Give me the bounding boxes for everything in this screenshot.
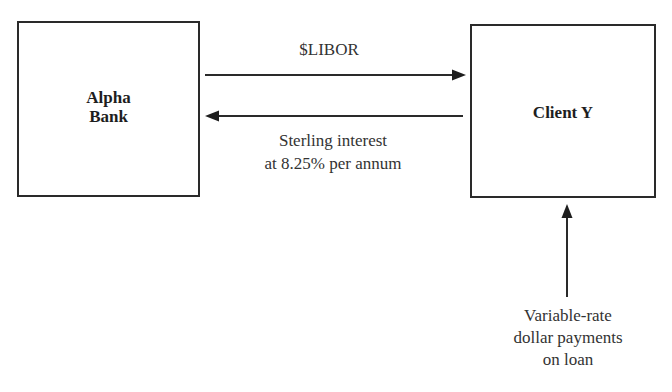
- dollar-payments-label-line-1: Variable-rate: [488, 305, 648, 327]
- arrow-dollar-payments: [562, 204, 573, 297]
- arrow-libor: [205, 70, 466, 81]
- dollar-payments-label-line-2: dollar payments: [488, 327, 648, 349]
- dollar-payments-label-line-3: on loan: [488, 349, 648, 371]
- dollar-payments-label: Variable-rate dollar payments on loan: [488, 305, 648, 371]
- libor-label: $LIBOR: [229, 38, 429, 61]
- sterling-interest-label-line-1: Sterling interest: [233, 129, 433, 152]
- arrow-sterling-interest: [205, 111, 463, 122]
- sterling-interest-label: Sterling interest at 8.25% per annum: [233, 129, 433, 175]
- sterling-interest-label-line-2: at 8.25% per annum: [233, 152, 433, 175]
- libor-label-line-1: $LIBOR: [229, 38, 429, 61]
